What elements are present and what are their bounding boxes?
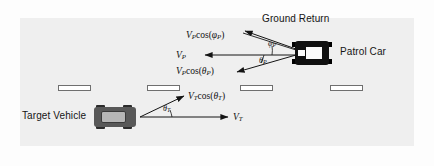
label-angle-phi-p: φP — [268, 39, 276, 48]
vector-vt-cos-theta-t — [140, 96, 184, 117]
vector-overlay — [0, 0, 434, 166]
angle-arc-theta-t — [170, 110, 172, 117]
vp-cos-phi-p-fn: cos( — [196, 30, 212, 40]
patrol-car-roof — [305, 46, 323, 60]
label-target-vehicle: Target Vehicle — [22, 110, 86, 121]
label-vp: VP — [176, 50, 186, 60]
target-vehicle-cabin — [101, 111, 126, 123]
label-angle-theta-p: θP — [259, 56, 267, 65]
label-ground-return: Ground Return — [262, 13, 329, 24]
vt-v-sub: T — [239, 115, 243, 122]
vt-cos-theta-t-close: ) — [222, 91, 225, 101]
angle-phi-p-sub: P — [272, 42, 276, 48]
label-vt-cos-theta-t: VTcos(θT) — [188, 91, 225, 101]
figure-canvas: Ground Return Patrol Car Target Vehicle … — [0, 0, 434, 166]
patrol-car — [292, 41, 332, 65]
target-vehicle — [90, 105, 140, 129]
angle-theta-p-sub: P — [263, 59, 267, 65]
label-vp-cos-phi-p: VPcos(φP) — [186, 30, 224, 40]
label-patrol-car: Patrol Car — [340, 46, 386, 57]
label-vt: VT — [233, 112, 243, 122]
vp-cos-phi-p-close: ) — [221, 30, 224, 40]
label-vp-cos-theta-p: VPcos(θP) — [176, 66, 214, 76]
vp-cos-theta-p-close: ) — [211, 66, 214, 76]
vp-v-sub: P — [182, 53, 186, 60]
vp-cos-theta-p-fn: cos( — [186, 66, 202, 76]
angle-theta-t-sub: T — [167, 107, 170, 113]
label-angle-theta-t: θT — [163, 104, 170, 113]
vt-cos-theta-t-fn: cos( — [198, 91, 214, 101]
